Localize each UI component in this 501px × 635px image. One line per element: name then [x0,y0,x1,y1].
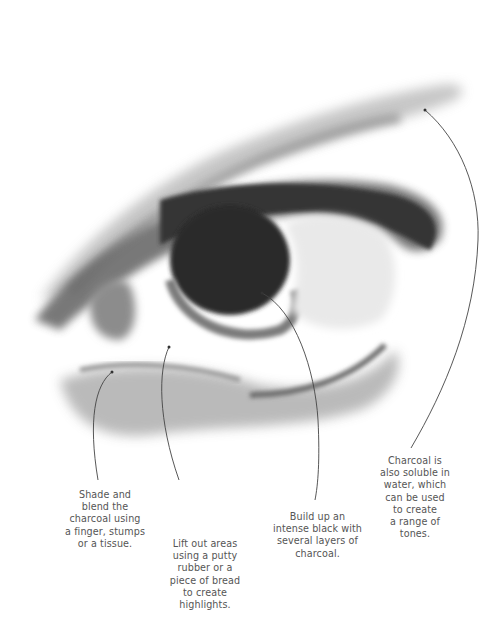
caption-line: blend the [55,501,155,513]
caption-line: Charcoal is [370,455,460,467]
caption-line: also soluble in [370,467,460,479]
caption-line: to create [160,587,250,599]
caption-line: can be used [370,492,460,504]
caption-line: a finger, stumps [55,526,155,538]
caption-black: Build up an intense black with several l… [265,511,370,560]
caption-line: piece of bread [160,575,250,587]
caption-shade: Shade and blend the charcoal using a fin… [55,489,155,550]
caption-line: highlights. [160,599,250,611]
caption-line: rubber or a [160,562,250,574]
caption-line: to create [370,504,460,516]
caption-water: Charcoal is also soluble in water, which… [370,455,460,540]
caption-line: tones. [370,528,460,540]
caption-line: using a putty [160,550,250,562]
caption-lift: Lift out areas using a putty rubber or a… [160,538,250,611]
iris [170,205,297,334]
caption-line: charcoal using [55,513,155,525]
caption-line: Build up an [265,511,370,523]
caption-line: Shade and [55,489,155,501]
leader-lines [93,109,478,501]
caption-line: a range of [370,516,460,528]
caption-line: charcoal. [265,548,370,560]
lower-lid-shading [60,345,399,436]
caption-line: or a tissue. [55,538,155,550]
eyeball-white [285,215,395,329]
caption-line: water, which [370,479,460,491]
leader-line-water [411,110,478,448]
caption-line: intense black with [265,523,370,535]
caption-line: Lift out areas [160,538,250,550]
caption-line: several layers of [265,535,370,547]
